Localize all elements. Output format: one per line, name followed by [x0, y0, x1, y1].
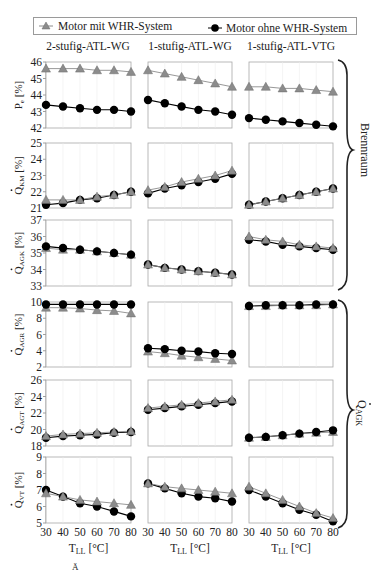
svg-text:QVT [%]: QVT [%] — [12, 472, 26, 509]
y-tick-label: 20 — [31, 424, 43, 436]
circle-marker-icon — [161, 99, 169, 107]
y-tick-label: 46 — [31, 56, 43, 68]
x-tick-label: 40 — [159, 526, 171, 538]
circle-marker-icon — [93, 300, 101, 308]
circle-marker-icon — [278, 431, 286, 439]
circle-marker-icon — [211, 107, 219, 115]
panel-r4-c1 — [42, 300, 136, 367]
chart-grid: Motor mit WHR-System Motor ohne WHR-Syst… — [0, 0, 382, 572]
y-tick-label: 43 — [31, 106, 43, 118]
circle-marker-icon — [262, 301, 270, 309]
x-tick-label: 60 — [91, 526, 103, 538]
svg-text:QAGK: QAGK — [354, 400, 369, 426]
circle-marker-icon — [59, 244, 67, 252]
panel-r2-c2 — [144, 143, 237, 208]
panel-r6-c2 — [144, 457, 237, 523]
x-tick-label: 80 — [125, 526, 137, 538]
panel-r3-c2 — [144, 220, 237, 286]
x-axis-title: TLL [°C] — [69, 542, 109, 556]
panel-r1-c3 — [245, 62, 338, 131]
panel-r3-c1 — [42, 220, 136, 286]
circle-marker-icon — [295, 301, 303, 309]
x-tick-label: 60 — [193, 526, 205, 538]
column-title-2: 1-stufig-ATL-WG — [148, 40, 232, 53]
y-tick-label: 10 — [31, 296, 43, 308]
circle-marker-icon — [76, 246, 84, 254]
y-tick-label: 25 — [31, 137, 43, 149]
panel-r6-c1 — [42, 457, 136, 523]
circle-marker-icon — [278, 301, 286, 309]
x-tick-label: 40 — [57, 526, 69, 538]
y-tick-label: 2 — [36, 361, 42, 373]
x-tick-label: 30 — [40, 526, 52, 538]
legend-entry-with-whr: Motor mit WHR-System — [39, 20, 172, 33]
y-tick-label: 4 — [36, 345, 42, 357]
y-axis-row-1: 4243444546Pe [%] — [12, 56, 46, 134]
legend-label-with-whr: Motor mit WHR-System — [58, 20, 172, 33]
y-axis-label-row-1: Pe [%] — [12, 81, 26, 109]
legend-entry-without-whr: Motor ohne WHR-System — [208, 22, 347, 35]
y-tick-label: 6 — [36, 329, 42, 341]
circle-marker-icon — [144, 96, 152, 104]
panel-r3-c3 — [245, 220, 338, 286]
y-axis-label-row-5: QAGT [%] — [11, 392, 26, 434]
svg-text:Pe [%]: Pe [%] — [12, 81, 26, 109]
x-tick-label: 80 — [226, 526, 238, 538]
y-axis-row-3: 3334353637QAGK [%] — [11, 214, 46, 292]
panel-r1-c1 — [42, 62, 136, 128]
y-tick-label: 21 — [31, 202, 43, 214]
circle-marker-icon — [127, 250, 135, 258]
y-tick-label: 24 — [31, 391, 43, 403]
x-tick-label: 70 — [209, 526, 221, 538]
circle-marker-icon — [110, 300, 118, 308]
circle-marker-icon — [245, 114, 253, 122]
circle-marker-icon — [228, 111, 236, 119]
y-tick-label: 22 — [31, 407, 43, 419]
circle-marker-icon — [228, 350, 236, 358]
caption-fragment: Ä — [72, 562, 79, 572]
circle-marker-icon — [329, 426, 337, 434]
figure: Motor mit WHR-System Motor ohne WHR-Syst… — [0, 0, 382, 572]
svg-text:QKM [%]: QKM [%] — [12, 156, 26, 194]
circle-marker-icon — [329, 300, 337, 308]
circle-marker-icon — [110, 106, 118, 114]
y-tick-label: 22 — [31, 186, 43, 198]
circle-marker-icon — [312, 428, 320, 436]
circle-marker-icon — [295, 429, 303, 437]
x-tick-label: 50 — [277, 526, 289, 538]
panels: 4243444546Pe [%]2122232425QKM [%]3334353… — [11, 56, 338, 529]
circle-marker-icon — [127, 107, 135, 115]
y-axis-label-row-6: QVT [%] — [11, 472, 26, 509]
y-axis-row-6: 56789QVT [%] — [11, 451, 46, 529]
x-axis-title: TLL [°C] — [170, 542, 210, 556]
panel-r2-c1 — [42, 143, 136, 209]
y-tick-label: 8 — [36, 468, 42, 480]
y-tick-label: 35 — [31, 247, 43, 259]
brace-label-qagk-sub: AGK — [354, 409, 363, 427]
brace-label-qagk: QAGK — [354, 400, 371, 426]
circle-marker-icon — [42, 101, 50, 109]
circle-marker-icon — [211, 349, 219, 357]
circle-marker-icon — [42, 242, 50, 250]
circle-marker-icon — [177, 347, 185, 355]
x-tick-label: 40 — [260, 526, 272, 538]
circle-marker-icon — [59, 102, 67, 110]
circle-marker-icon — [245, 302, 253, 310]
circle-marker-icon — [278, 117, 286, 125]
y-tick-label: 33 — [31, 280, 43, 292]
circle-marker-icon — [127, 300, 135, 308]
circle-marker-icon — [245, 434, 253, 442]
panel-r1-c2 — [144, 62, 237, 128]
x-tick-label: 30 — [142, 526, 154, 538]
legend-label-without-whr: Motor ohne WHR-System — [226, 22, 347, 35]
circle-marker-icon — [211, 24, 219, 32]
circle-marker-icon — [59, 300, 67, 308]
y-tick-label: 36 — [31, 231, 43, 243]
panel-r4-c2 — [144, 302, 237, 367]
brace-label-brennraum: Brennraum — [358, 123, 372, 178]
x-tick-label: 30 — [243, 526, 255, 538]
x-tick-label: 50 — [176, 526, 188, 538]
svg-text:QAGT [%]: QAGT [%] — [12, 392, 26, 434]
circle-marker-icon — [312, 300, 320, 308]
circle-marker-icon — [93, 247, 101, 255]
